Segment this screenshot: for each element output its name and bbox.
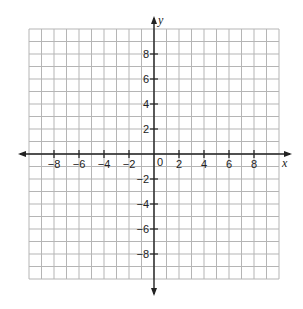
y-tick-label: 2 <box>143 123 149 135</box>
x-tick-label: −6 <box>73 158 86 170</box>
x-tick-label: 4 <box>201 158 207 170</box>
x-tick-label: 8 <box>251 158 257 170</box>
y-tick-label: −6 <box>136 223 149 235</box>
y-tick-label: −8 <box>136 248 149 260</box>
x-axis-label: x <box>281 156 288 170</box>
y-tick-label: −2 <box>136 173 149 185</box>
y-tick-label: 4 <box>143 98 149 110</box>
x-tick-label: −4 <box>98 158 111 170</box>
y-tick-label: −4 <box>136 198 149 210</box>
y-axis-label: y <box>157 13 164 27</box>
y-axis-arrow-up-icon <box>151 16 157 24</box>
origin-label: 0 <box>157 156 163 168</box>
x-tick-label: −2 <box>123 158 136 170</box>
x-tick-label: 6 <box>226 158 232 170</box>
coordinate-plane: −8−6−4−224688642−2−4−6−8 x y 0 <box>0 0 303 309</box>
x-tick-label: 2 <box>176 158 182 170</box>
x-tick-label: −8 <box>48 158 61 170</box>
y-axis-arrow-down-icon <box>151 288 157 296</box>
x-axis-arrow-left-icon <box>18 151 26 157</box>
y-tick-label: 6 <box>143 73 149 85</box>
y-tick-label: 8 <box>143 48 149 60</box>
